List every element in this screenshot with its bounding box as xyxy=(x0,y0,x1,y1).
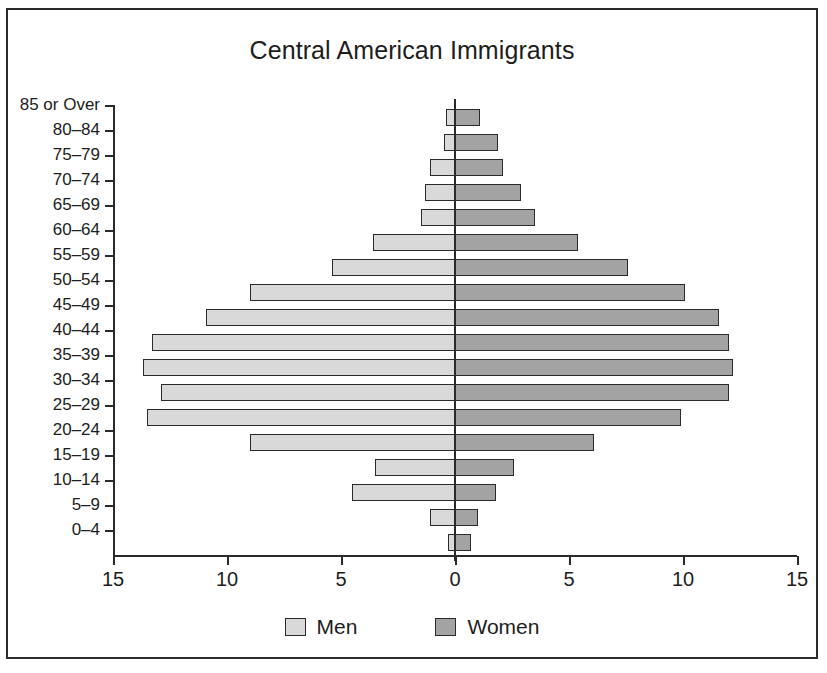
bar-women xyxy=(455,109,480,126)
y-axis-tick-label: 85 or Over xyxy=(8,96,100,113)
y-axis-tick xyxy=(105,180,113,182)
x-axis-tick-label: 5 xyxy=(544,568,594,591)
bar-women xyxy=(455,309,719,326)
bar-men xyxy=(373,234,455,251)
bar-women xyxy=(455,284,685,301)
y-axis-tick xyxy=(105,230,113,232)
y-axis-tick-label: 60–64 xyxy=(8,221,100,238)
y-axis-tick-label: 25–29 xyxy=(8,396,100,413)
chart-figure: Central American Immigrants 85 or Over80… xyxy=(6,8,818,659)
legend-item-men: Men xyxy=(285,615,358,639)
y-axis-tick-label: 35–39 xyxy=(8,346,100,363)
chart-legend: Men Women xyxy=(8,615,816,639)
x-axis-tick xyxy=(227,556,229,565)
y-axis-tick-label: 0–4 xyxy=(8,521,100,538)
bar-men xyxy=(147,409,455,426)
y-axis-tick xyxy=(105,505,113,507)
y-axis-tick xyxy=(105,280,113,282)
x-axis-tick-label: 15 xyxy=(772,568,822,591)
plot-area xyxy=(113,105,797,555)
x-axis-tick xyxy=(113,556,115,565)
bar-women xyxy=(455,209,535,226)
legend-label-women: Women xyxy=(467,615,539,639)
bar-women xyxy=(455,509,478,526)
bar-men xyxy=(421,209,455,226)
x-axis-tick-label: 0 xyxy=(430,568,480,591)
x-axis-tick-label: 10 xyxy=(202,568,252,591)
legend-label-men: Men xyxy=(317,615,358,639)
bar-men xyxy=(425,184,455,201)
bar-men xyxy=(161,384,455,401)
y-axis-tick-label: 10–14 xyxy=(8,471,100,488)
y-axis-tick xyxy=(105,455,113,457)
y-axis-tick-label: 75–79 xyxy=(8,146,100,163)
y-axis-tick xyxy=(105,405,113,407)
y-axis-tick xyxy=(105,255,113,257)
y-axis-tick xyxy=(105,205,113,207)
bar-women xyxy=(455,334,729,351)
bar-men xyxy=(250,284,455,301)
y-axis-tick-label: 15–19 xyxy=(8,446,100,463)
y-axis-tick-label: 65–69 xyxy=(8,196,100,213)
y-axis-tick xyxy=(105,355,113,357)
bar-women xyxy=(455,259,628,276)
bar-men xyxy=(250,434,455,451)
y-axis-tick xyxy=(105,430,113,432)
legend-swatch-men-icon xyxy=(285,618,306,636)
y-axis-tick-label: 50–54 xyxy=(8,271,100,288)
x-axis-tick-label: 5 xyxy=(316,568,366,591)
bar-women xyxy=(455,184,521,201)
bar-women xyxy=(455,234,578,251)
bar-men xyxy=(352,484,455,501)
legend-swatch-women-icon xyxy=(435,618,456,636)
y-axis-tick xyxy=(105,530,113,532)
bar-women xyxy=(455,409,681,426)
bar-women xyxy=(455,359,733,376)
y-axis-tick-label: 55–59 xyxy=(8,246,100,263)
y-axis-tick-label: 30–34 xyxy=(8,371,100,388)
bar-women xyxy=(455,384,729,401)
y-axis-tick-label: 20–24 xyxy=(8,421,100,438)
y-axis-tick xyxy=(105,105,113,107)
bar-women xyxy=(455,534,471,551)
x-axis-tick-label: 10 xyxy=(658,568,708,591)
y-axis-tick-label: 45–49 xyxy=(8,296,100,313)
bar-men xyxy=(206,309,455,326)
y-axis-tick xyxy=(105,130,113,132)
bar-men xyxy=(143,359,455,376)
y-axis-tick xyxy=(105,480,113,482)
bar-women xyxy=(455,484,496,501)
y-axis-tick-label: 40–44 xyxy=(8,321,100,338)
x-axis-tick xyxy=(455,556,457,565)
chart-title: Central American Immigrants xyxy=(8,36,816,65)
bar-men xyxy=(152,334,455,351)
bar-women xyxy=(455,459,514,476)
zero-axis-line xyxy=(454,99,456,561)
y-axis-tick xyxy=(105,305,113,307)
x-axis-tick xyxy=(797,556,799,565)
bar-women xyxy=(455,159,503,176)
y-axis-tick xyxy=(105,380,113,382)
x-axis-tick-label: 15 xyxy=(88,568,138,591)
x-axis-tick xyxy=(683,556,685,565)
y-axis-tick xyxy=(105,155,113,157)
bar-men xyxy=(430,509,455,526)
x-axis-tick xyxy=(569,556,571,565)
x-axis-tick xyxy=(341,556,343,565)
y-axis-tick xyxy=(105,330,113,332)
legend-item-women: Women xyxy=(435,615,539,639)
y-axis-tick-label: 80–84 xyxy=(8,121,100,138)
y-axis-tick-label: 5–9 xyxy=(8,496,100,513)
y-axis-tick-label: 70–74 xyxy=(8,171,100,188)
bar-women xyxy=(455,134,498,151)
bar-men xyxy=(430,159,455,176)
bar-men xyxy=(375,459,455,476)
bar-women xyxy=(455,434,594,451)
bar-men xyxy=(332,259,455,276)
